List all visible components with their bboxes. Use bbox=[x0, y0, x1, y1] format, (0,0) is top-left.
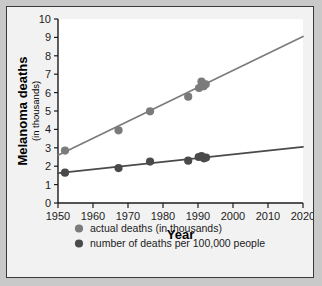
y-tick-label: 2 bbox=[45, 160, 51, 172]
x-tick-label: 1960 bbox=[81, 210, 105, 222]
chart-canvas: 0123456789101950196019701980199020002010… bbox=[7, 7, 313, 277]
x-tick-label: 1970 bbox=[116, 210, 140, 222]
data-point bbox=[146, 107, 154, 115]
y-tick-label: 9 bbox=[45, 31, 51, 43]
x-tick-label: 1980 bbox=[151, 210, 175, 222]
y-tick-label: 1 bbox=[45, 179, 51, 191]
y-tick-label: 0 bbox=[45, 197, 51, 209]
data-point bbox=[61, 146, 69, 154]
y-tick-label: 7 bbox=[45, 68, 51, 80]
data-point bbox=[184, 157, 192, 165]
legend-marker bbox=[75, 239, 83, 247]
legend-label: actual deaths (in thousands) bbox=[90, 222, 222, 234]
y-tick-label: 5 bbox=[45, 105, 51, 117]
y-tick-label: 8 bbox=[45, 50, 51, 62]
data-point bbox=[184, 93, 192, 101]
y-tick-label: 6 bbox=[45, 87, 51, 99]
x-tick-label: 2020 bbox=[291, 210, 313, 222]
data-point bbox=[114, 164, 122, 172]
x-tick-label: 2010 bbox=[256, 210, 280, 222]
data-point bbox=[114, 126, 122, 134]
x-tick-label: 1950 bbox=[46, 210, 70, 222]
data-point bbox=[61, 169, 69, 177]
y-tick-label: 4 bbox=[45, 123, 51, 135]
y-axis-title: Melanoma deaths bbox=[15, 56, 30, 165]
y-tick-label: 3 bbox=[45, 142, 51, 154]
data-point bbox=[202, 80, 210, 88]
x-tick-label: 2000 bbox=[221, 210, 245, 222]
plot-area-background bbox=[58, 19, 303, 203]
x-tick-label: 1990 bbox=[186, 210, 210, 222]
data-point bbox=[202, 153, 210, 161]
melanoma-deaths-chart: 0123456789101950196019701980199020002010… bbox=[7, 7, 313, 277]
legend-marker bbox=[75, 224, 83, 232]
figure-frame: 0123456789101950196019701980199020002010… bbox=[6, 6, 314, 278]
data-point bbox=[146, 158, 154, 166]
y-tick-label: 10 bbox=[39, 13, 51, 25]
legend-label: number of deaths per 100,000 people bbox=[90, 237, 265, 249]
y-axis-subtitle: (in thousands) bbox=[30, 81, 41, 141]
